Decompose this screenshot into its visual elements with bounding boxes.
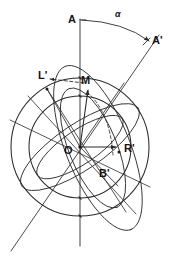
diagram-canvas: A A' α L' M O B' R' — [0, 0, 172, 261]
label-axis-tilted: A' — [152, 35, 163, 46]
geometry-svg — [0, 0, 172, 261]
point-marker-L — [46, 88, 49, 91]
label-left-point: L' — [38, 70, 47, 81]
point-marker-O — [78, 145, 81, 148]
angle-arc — [82, 20, 149, 41]
label-axis-top: A — [68, 14, 76, 25]
ray-O-to-upper-right — [80, 83, 124, 147]
label-meridian-point: M — [81, 75, 90, 86]
label-bottom-point: B' — [99, 168, 110, 179]
label-right-point: R' — [124, 143, 135, 154]
label-angle-alpha: α — [115, 10, 121, 19]
tilted-axis — [11, 35, 159, 251]
label-origin: O — [64, 145, 73, 156]
vector-O-to-M — [80, 90, 88, 147]
point-marker-R — [118, 151, 121, 154]
